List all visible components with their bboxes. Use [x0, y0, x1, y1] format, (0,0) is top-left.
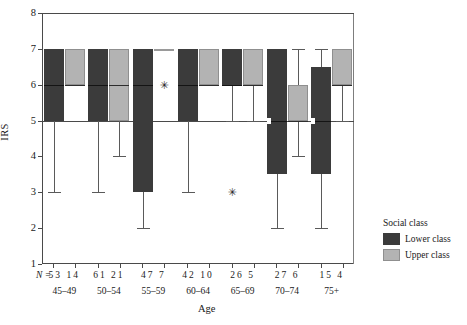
whisker-lower — [54, 121, 55, 193]
plot-frame-right — [353, 13, 354, 264]
whisker-cap-lower — [226, 121, 239, 122]
median-line — [88, 85, 108, 86]
whisker-lower — [342, 85, 343, 121]
y-axis-title: IRS — [0, 123, 10, 140]
x-axis-category-label: 55–59 — [142, 286, 166, 296]
group-n-counts: 27 6 — [275, 270, 300, 280]
whisker-lower — [98, 121, 99, 193]
y-tick-label: 4 — [31, 151, 36, 162]
median-line — [44, 85, 64, 86]
y-tick-label: 7 — [31, 44, 36, 55]
whisker-cap-lower — [48, 192, 61, 193]
plot-area: 12345678 ✳✳ — [42, 13, 354, 264]
median-line — [178, 85, 198, 86]
outlier-marker: ✳ — [159, 79, 168, 90]
x-axis-title: Age — [198, 303, 216, 314]
legend-swatch-upper-icon — [383, 249, 400, 261]
x-axis-tick — [298, 263, 299, 268]
whisker-cap-upper — [315, 49, 328, 50]
whisker-cap-lower — [292, 156, 305, 157]
whisker-lower — [277, 174, 278, 228]
median-line — [332, 85, 352, 86]
median-line — [288, 121, 308, 122]
whisker-cap-lower — [315, 228, 328, 229]
whisker-cap-lower — [113, 156, 126, 157]
whisker-lower — [232, 85, 233, 121]
box-upper-class — [65, 49, 85, 85]
y-axis-tick — [38, 264, 42, 265]
x-axis-category-label: 50–54 — [97, 286, 121, 296]
y-axis-tick — [38, 85, 42, 86]
y-axis-tick — [38, 49, 42, 50]
whisker-lower — [298, 121, 299, 157]
boxplot-figure: IRS Age 12345678 ✳✳ N = 53 1445–4961 215… — [0, 0, 467, 325]
x-axis-category-label: 65–69 — [231, 286, 255, 296]
x-axis-tick — [142, 263, 143, 268]
outlier-marker: ✳ — [227, 187, 236, 198]
y-tick-label: 5 — [31, 115, 36, 126]
y-tick-label: 1 — [31, 259, 36, 270]
legend-item-upper: Upper class — [383, 249, 465, 261]
y-tick-label: 3 — [31, 187, 36, 198]
median-notch-marker — [311, 118, 315, 124]
x-axis-line — [42, 263, 354, 264]
group-n-counts: 53 14 — [49, 270, 80, 280]
x-axis-tick — [120, 263, 121, 268]
y-axis-line — [42, 13, 43, 264]
x-axis-tick — [75, 263, 76, 268]
x-axis-tick — [187, 263, 188, 268]
median-line — [109, 85, 129, 86]
group-n-counts: 26 5 — [230, 270, 255, 280]
y-tick-label: 6 — [31, 79, 36, 90]
whisker-lower — [143, 192, 144, 228]
box-upper-class — [243, 49, 263, 85]
x-axis-tick — [232, 263, 233, 268]
whisker-cap-lower — [137, 228, 150, 229]
x-axis-tick — [53, 263, 54, 268]
whisker-lower — [119, 121, 120, 157]
legend-label-upper: Upper class — [405, 250, 450, 260]
median-line — [199, 85, 219, 86]
whisker-lower — [188, 121, 189, 193]
y-axis-tick — [38, 156, 42, 157]
whisker-cap-lower — [271, 228, 284, 229]
box-upper-class — [199, 49, 219, 85]
x-axis-tick — [98, 263, 99, 268]
whisker-cap-lower — [182, 192, 195, 193]
median-line — [65, 85, 85, 86]
y-tick-label: 2 — [31, 223, 36, 234]
box-upper-class — [332, 49, 352, 85]
group-n-counts: 47 7 — [141, 270, 166, 280]
whisker-lower — [253, 85, 254, 121]
group-n-counts: 42 10 — [182, 270, 213, 280]
box-lower-class — [133, 49, 153, 192]
x-axis-tick — [254, 263, 255, 268]
whisker-lower — [321, 174, 322, 228]
whisker-cap-lower — [336, 121, 349, 122]
x-axis-tick — [164, 263, 165, 268]
box-lower-class — [222, 49, 242, 85]
median-line — [243, 85, 263, 86]
whisker-cap-lower — [247, 121, 260, 122]
box-lower-class — [267, 49, 287, 175]
x-axis-category-label: 45–49 — [52, 286, 76, 296]
median-line — [222, 85, 242, 86]
whisker-upper — [298, 49, 299, 85]
x-axis-category-label: 60–64 — [186, 286, 210, 296]
x-axis-tick — [343, 263, 344, 268]
x-axis-category-label: 75+ — [324, 286, 339, 296]
whisker-upper — [321, 49, 322, 67]
y-axis-tick — [38, 228, 42, 229]
legend-label-lower: Lower class — [405, 234, 451, 244]
box-upper-class — [154, 49, 174, 51]
whisker-cap-upper — [292, 49, 305, 50]
box-upper-class — [288, 85, 308, 121]
x-axis-category-label: 70–74 — [275, 286, 299, 296]
legend-item-lower: Lower class — [383, 233, 465, 245]
reference-line — [42, 13, 354, 14]
median-line — [133, 85, 153, 86]
y-tick-label: 8 — [31, 8, 36, 19]
legend-title: Social class — [383, 218, 465, 228]
legend-swatch-lower-icon — [383, 233, 400, 245]
x-axis-tick — [276, 263, 277, 268]
